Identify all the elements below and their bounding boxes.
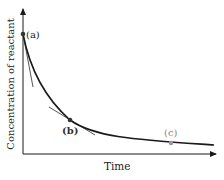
point-a-label: (a) (26, 29, 40, 40)
y-axis-label: Concentration of reactant (5, 18, 16, 149)
point-c-label: (c) (164, 127, 178, 138)
point-c-marker (169, 141, 174, 146)
point-b-marker (68, 118, 73, 123)
concentration-curve (23, 34, 214, 145)
point-a-marker (21, 32, 26, 37)
x-axis-label: Time (104, 160, 131, 172)
reaction-rate-diagram: (a) (b) (c) Time Concentration of reacta… (0, 0, 224, 180)
point-b-label: (b) (62, 125, 78, 136)
